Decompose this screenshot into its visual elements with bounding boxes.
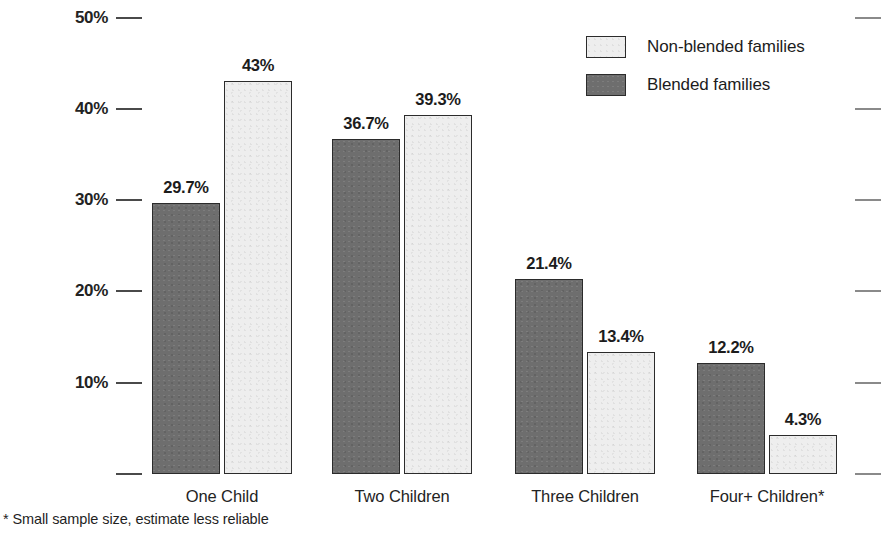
bar-blended-1 [152, 203, 220, 474]
bar-value-label: 29.7% [140, 178, 232, 197]
y-axis-tick-mark [116, 290, 142, 292]
y-axis-tick-mark [116, 473, 142, 475]
y-axis-tick-mark [116, 199, 142, 201]
legend-item-blended: Blended families [586, 70, 805, 100]
bar-blended-2 [332, 139, 400, 474]
y-axis-tick-mark [116, 17, 142, 19]
y-axis-tick-label: 20% [0, 281, 108, 301]
legend-swatch-non-blended-icon [586, 36, 626, 58]
legend-swatch-blended-icon [586, 74, 626, 96]
y-axis-tick-label: 40% [0, 99, 108, 119]
category-label-4: Four+ Children* [657, 487, 877, 506]
legend-item-non-blended: Non-blended families [586, 32, 805, 62]
bar-non-blended-4 [769, 435, 837, 474]
footnote: * Small sample size, estimate less relia… [3, 511, 269, 527]
bar-non-blended-3 [587, 352, 655, 474]
y-axis-tick-mark [116, 108, 142, 110]
y-axis-tick-label: 10% [0, 373, 108, 393]
y-axis-tick-mark-right [855, 382, 881, 384]
legend: Non-blended families Blended families [586, 32, 805, 108]
bar-value-label: 21.4% [503, 254, 595, 273]
y-axis-tick-mark-right [855, 290, 881, 292]
bar-blended-4 [697, 363, 765, 474]
y-axis-tick-label: 30% [0, 190, 108, 210]
bar-value-label: 39.3% [392, 90, 484, 109]
bar-blended-3 [515, 279, 583, 474]
bar-value-label: 4.3% [757, 410, 849, 429]
y-axis-tick-mark-right [855, 108, 881, 110]
bar-non-blended-2 [404, 115, 472, 474]
bar-value-label: 43% [212, 56, 304, 75]
bar-value-label: 12.2% [685, 338, 777, 357]
bar-non-blended-1 [224, 81, 292, 474]
y-axis-tick-mark-right [855, 17, 881, 19]
bar-chart: 10%20%30%40%50% 29.7%43%36.7%39.3%21.4%1… [0, 0, 896, 541]
y-axis-tick-mark-right [855, 199, 881, 201]
y-axis-tick-label: 50% [0, 8, 108, 28]
bar-value-label: 36.7% [320, 114, 412, 133]
y-axis-tick-mark-right [855, 473, 881, 475]
y-axis-tick-mark [116, 382, 142, 384]
legend-label-non-blended: Non-blended families [647, 37, 805, 57]
bar-value-label: 13.4% [575, 327, 667, 346]
legend-label-blended: Blended families [647, 75, 770, 95]
